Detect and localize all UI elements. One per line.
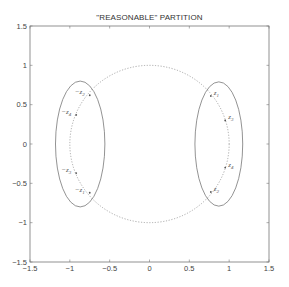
data-point [210, 191, 212, 193]
right-cluster-ellipse [195, 82, 243, 206]
x-tick-label: 0.5 [184, 264, 194, 273]
data-point [75, 114, 77, 116]
data-point [89, 94, 91, 96]
y-tick-label: 1 [23, 61, 27, 70]
point-label: z4 [227, 161, 234, 170]
y-tick-label: 0 [23, 140, 27, 149]
y-tick-label: 0.5 [17, 100, 27, 109]
point-label: z1 [213, 89, 219, 98]
point-label: z2 [213, 185, 220, 194]
point-label: −z4 [61, 108, 71, 117]
data-point [89, 192, 91, 194]
point-label: −z2 [75, 88, 85, 97]
x-tick-label: 1 [227, 264, 231, 273]
figure: "REASONABLE" PARTITION −1.5−1−0.500.511.… [0, 0, 289, 287]
x-tick-label: −1 [66, 264, 75, 273]
x-tick-label: 1.5 [264, 264, 274, 273]
data-point [75, 172, 77, 174]
data-point [224, 167, 226, 169]
data-point [224, 120, 226, 122]
point-label: z3 [227, 113, 234, 122]
y-tick-label: −0.5 [12, 179, 27, 188]
x-tick-label: 0 [147, 264, 151, 273]
y-tick-label: −1.5 [12, 258, 27, 267]
point-label: −z3 [61, 166, 71, 175]
plot-area: −1.5−1−0.500.511.51.510.50−0.5−1−1.5−z2−… [0, 0, 289, 287]
axes-box [30, 26, 269, 262]
data-point [210, 95, 212, 97]
y-tick-label: −1 [18, 218, 27, 227]
y-tick-label: 1.5 [17, 22, 27, 31]
x-tick-label: −0.5 [102, 264, 117, 273]
unit-circle [70, 65, 229, 222]
